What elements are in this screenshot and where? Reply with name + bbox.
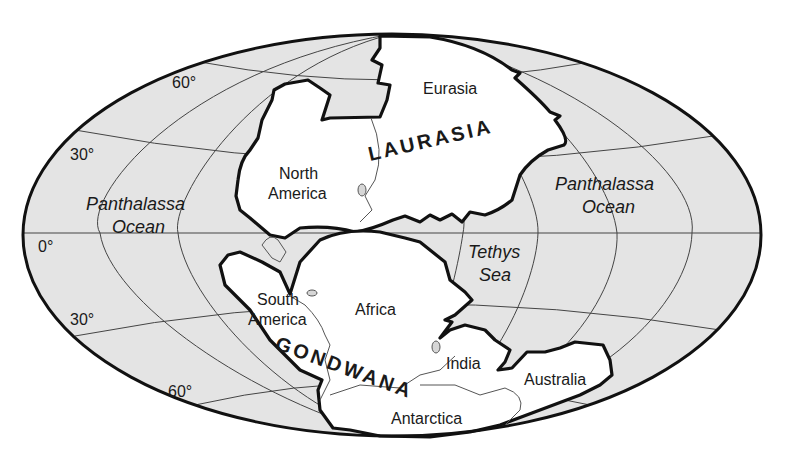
label-south-america-1: South xyxy=(257,291,299,308)
label-india: India xyxy=(446,355,481,372)
label-africa: Africa xyxy=(355,301,396,318)
label-tethys: Tethys xyxy=(468,242,520,262)
lake-3 xyxy=(432,341,440,353)
label-panthalassa-east: Panthalassa xyxy=(555,174,654,194)
label-north-america-2: America xyxy=(268,185,327,202)
label-lat-60s: 60° xyxy=(168,383,192,400)
label-panthalassa-west: Panthalassa xyxy=(86,194,185,214)
lake-2 xyxy=(307,290,317,296)
label-ocean-east: Ocean xyxy=(582,197,635,217)
label-antarctica: Antarctica xyxy=(391,410,462,427)
label-sea: Sea xyxy=(479,265,511,285)
label-south-america-2: America xyxy=(248,311,307,328)
label-north-america-1: North xyxy=(279,165,318,182)
label-lat-30s: 30° xyxy=(70,311,94,328)
label-australia: Australia xyxy=(524,371,586,388)
label-lat-30n: 30° xyxy=(70,146,94,163)
label-eurasia: Eurasia xyxy=(423,80,477,97)
label-lat-60n: 60° xyxy=(172,74,196,91)
pangaea-map: 60° 30° 0° 30° 60° Panthalassa Ocean Pan… xyxy=(0,0,785,463)
lake-1 xyxy=(358,184,366,196)
label-ocean-west: Ocean xyxy=(112,217,165,237)
label-lat-0: 0° xyxy=(38,238,53,255)
